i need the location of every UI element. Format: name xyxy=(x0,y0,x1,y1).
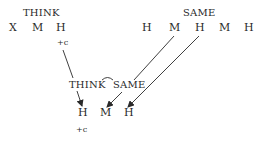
m-association-line xyxy=(134,36,174,80)
segment-h: H xyxy=(142,22,152,33)
segment-h: H xyxy=(195,22,205,33)
segment-m: M xyxy=(100,107,111,118)
gloss-same-top: SAME xyxy=(183,8,215,18)
segment-m: M xyxy=(219,22,230,33)
gloss-think-bottom: THINK xyxy=(69,80,106,90)
feature-plus-c-bottom: +c xyxy=(76,126,87,134)
gloss-same-bottom: SAME xyxy=(113,80,145,90)
feature-spread-line xyxy=(63,50,73,78)
h-association-arrow xyxy=(128,36,199,107)
same-to-m-arrow xyxy=(107,92,122,107)
segment-h: H xyxy=(56,22,66,33)
segment-m: M xyxy=(169,22,180,33)
segment-m: M xyxy=(32,22,43,33)
segment-h: H xyxy=(124,107,134,118)
segment-h: H xyxy=(244,22,254,33)
gloss-think-top: THINK xyxy=(23,8,60,18)
segment-x: X xyxy=(9,22,17,33)
segment-h: H xyxy=(78,107,88,118)
think-to-h-arrow xyxy=(77,91,82,106)
feature-plus-c-top: +c xyxy=(57,39,68,47)
